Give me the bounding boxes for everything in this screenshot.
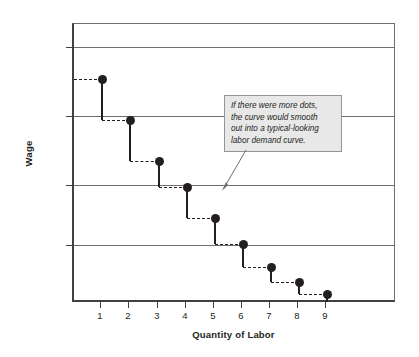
x-tick-mark-4: [185, 302, 186, 308]
data-point-4[interactable]: [183, 183, 192, 192]
data-point-5[interactable]: [211, 214, 220, 223]
x-tick-mark-8: [297, 302, 298, 308]
x-tick-label-6: 6: [231, 310, 251, 321]
drop-line-1: [101, 79, 103, 120]
x-tick-mark-5: [213, 302, 214, 308]
drop-line-2: [129, 120, 131, 161]
wage-labor-demand-chart: Wage 2,000 1,500 1,000 500: [0, 0, 419, 357]
x-tick-label-4: 4: [175, 310, 195, 321]
x-tick-label-5: 5: [203, 310, 223, 321]
data-point-6[interactable]: [239, 240, 248, 249]
data-point-2[interactable]: [126, 116, 135, 125]
annotation-line-1: If there were more dots,: [231, 100, 336, 112]
x-tick-label-7: 7: [259, 310, 279, 321]
x-tick-mark-3: [157, 302, 158, 308]
x-tick-mark-6: [241, 302, 242, 308]
x-tick-mark-9: [325, 302, 326, 308]
data-point-1[interactable]: [98, 75, 107, 84]
x-axis-title: Quantity of Labor: [72, 329, 395, 340]
x-tick-label-9: 9: [315, 310, 335, 321]
drop-line-4: [186, 187, 188, 218]
data-point-7[interactable]: [267, 263, 276, 272]
x-tick-label-2: 2: [118, 310, 138, 321]
annotation-line-3: out into a typical-looking: [231, 123, 336, 135]
gridline-2000: [74, 47, 394, 48]
x-tick-mark-2: [128, 302, 129, 308]
x-tick-label-8: 8: [287, 310, 307, 321]
x-tick-mark-7: [269, 302, 270, 308]
gridline-500: [74, 245, 394, 246]
y-axis-title: Wage: [23, 124, 34, 184]
data-point-3[interactable]: [155, 157, 164, 166]
annotation-leader-line: [210, 140, 250, 195]
x-tick-mark-1: [100, 302, 101, 308]
data-point-9[interactable]: [323, 290, 332, 299]
annotation-line-2: the curve would smooth: [231, 112, 336, 124]
x-tick-label-1: 1: [90, 310, 110, 321]
data-point-8[interactable]: [295, 278, 304, 287]
x-tick-label-3: 3: [147, 310, 167, 321]
